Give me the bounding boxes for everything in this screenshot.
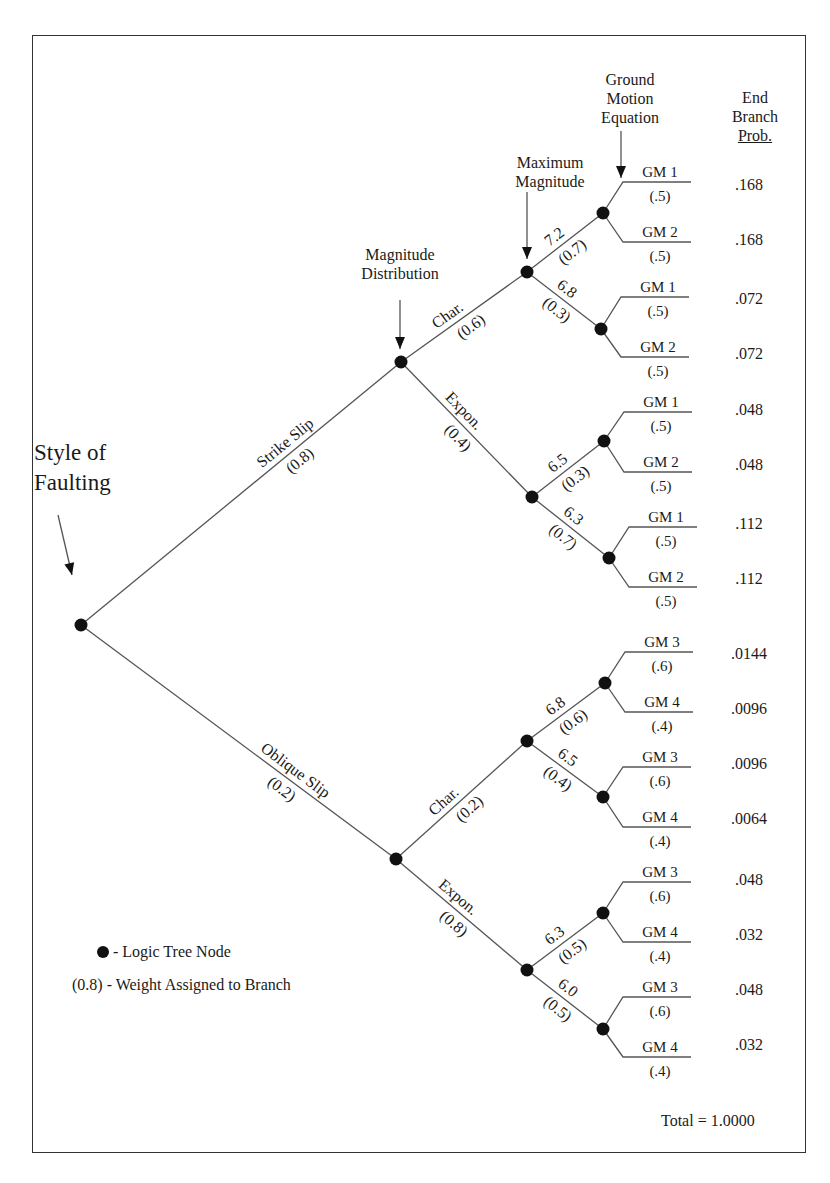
- logic-tree-node: [595, 323, 608, 336]
- ground-motion-weight: (.4): [649, 1063, 670, 1080]
- header-line: Maximum: [490, 153, 610, 172]
- logic-tree-node: [526, 491, 539, 504]
- logic-tree-node: [390, 853, 403, 866]
- header-style-of-faulting: Style of Faulting: [34, 438, 111, 498]
- ground-motion-weight: (.5): [655, 533, 676, 550]
- ground-motion-weight: (.5): [649, 188, 670, 205]
- branch-oblique-slip: [81, 625, 396, 859]
- ground-motion-branch: [603, 767, 691, 797]
- ground-motion-label: GM 2: [642, 224, 677, 240]
- header-line: Branch: [710, 107, 800, 126]
- ground-motion-label: GM 2: [643, 454, 678, 470]
- arrow-head-icon: [64, 562, 74, 575]
- branch-magnitude-distribution: [396, 741, 527, 859]
- ground-motion-weight: (.5): [650, 478, 671, 495]
- header-line: Motion: [570, 89, 690, 108]
- end-branch-prob: .072: [714, 345, 784, 363]
- branch-label: 6.0: [555, 975, 581, 1001]
- header-line: Style of: [34, 438, 111, 468]
- header-underlined: Prob.: [738, 127, 772, 144]
- ground-motion-label: GM 1: [640, 279, 675, 295]
- end-branch-prob: .168: [714, 231, 784, 249]
- end-branch-prob: .048: [714, 981, 784, 999]
- ground-motion-label: GM 4: [642, 924, 678, 940]
- legend-weight-text: (0.8) - Weight Assigned to Branch: [72, 976, 291, 993]
- end-branch-prob: .0144: [714, 645, 784, 663]
- logic-tree-node: [599, 677, 612, 690]
- ground-motion-label: GM 3: [642, 749, 677, 765]
- logic-tree-node: [598, 435, 611, 448]
- header-line: Faulting: [34, 468, 111, 498]
- legend-node: - Logic Tree Node: [97, 943, 231, 961]
- ground-motion-weight: (.6): [649, 773, 670, 790]
- total-text: Total = 1.0000: [661, 1112, 755, 1129]
- ground-motion-weight: (.5): [647, 363, 668, 380]
- ground-motion-branch: [609, 527, 697, 558]
- ground-motion-label: GM 4: [642, 1039, 678, 1055]
- ground-motion-weight: (.4): [649, 833, 670, 850]
- ground-motion-label: GM 1: [642, 164, 677, 180]
- branch-label: 6.5: [555, 744, 581, 770]
- ground-motion-label: GM 3: [642, 979, 677, 995]
- logic-tree-node: [603, 552, 616, 565]
- end-branch-prob: .112: [714, 570, 784, 588]
- logic-tree-node: [521, 266, 534, 279]
- logic-tree-node: [597, 791, 610, 804]
- ground-motion-weight: (.5): [650, 418, 671, 435]
- ground-motion-weight: (.6): [649, 888, 670, 905]
- arrow-head-icon: [395, 337, 405, 349]
- ground-motion-label: GM 4: [644, 694, 680, 710]
- ground-motion-weight: (.5): [649, 248, 670, 265]
- end-branch-prob: .0096: [714, 755, 784, 773]
- branch-magnitude-distribution: [401, 362, 532, 497]
- branch-label: 6.8: [554, 276, 580, 302]
- end-branch-prob: .032: [714, 926, 784, 944]
- ground-motion-label: GM 4: [642, 809, 678, 825]
- branch-label: 6.3: [541, 922, 567, 948]
- arrow-head-icon: [522, 247, 532, 259]
- logic-tree-node: [597, 207, 610, 220]
- end-branch-prob: .048: [714, 871, 784, 889]
- ground-motion-branch: [604, 412, 692, 441]
- logic-tree-node: [521, 964, 534, 977]
- logic-tree-node: [75, 619, 88, 632]
- total-probability: Total = 1.0000: [661, 1112, 755, 1130]
- header-line: Ground: [570, 70, 690, 89]
- branch-label: 6.3: [561, 503, 587, 529]
- header-line: Magnitude: [490, 172, 610, 191]
- end-branch-prob: .048: [714, 401, 784, 419]
- ground-motion-weight: (.5): [647, 303, 668, 320]
- arrow-head-icon: [616, 166, 626, 178]
- header-ground-motion-equation: Ground Motion Equation: [570, 70, 690, 127]
- ground-motion-branch: [603, 182, 691, 213]
- logic-tree-node: [395, 356, 408, 369]
- branch-label: 6.8: [542, 693, 568, 719]
- ground-motion-weight: (.4): [649, 948, 670, 965]
- ground-motion-weight: (.5): [655, 593, 676, 610]
- end-branch-prob: .0064: [714, 810, 784, 828]
- header-end-branch-prob: End Branch Prob.: [710, 88, 800, 145]
- ground-motion-label: GM 2: [648, 569, 683, 585]
- end-branch-prob: .048: [714, 456, 784, 474]
- branch-label: 7.2: [541, 224, 567, 250]
- branch-strike-slip: [81, 362, 401, 625]
- end-branch-prob: .112: [714, 515, 784, 533]
- branch-magnitude-distribution: [396, 859, 527, 970]
- header-magnitude-distribution: Magnitude Distribution: [330, 245, 470, 283]
- ground-motion-label: GM 1: [648, 509, 683, 525]
- ground-motion-weight: (.4): [651, 718, 672, 735]
- logic-tree-node: [521, 735, 534, 748]
- branch-magnitude-distribution: [401, 272, 527, 362]
- ground-motion-weight: (.6): [649, 1003, 670, 1020]
- branch-label: 6.5: [544, 450, 570, 476]
- logic-tree-node: [597, 1023, 610, 1036]
- end-branch-prob: .168: [714, 176, 784, 194]
- logic-tree-diagram: Strike Slip(0.8)Char.(0.6)7.2(0.7)GM 1(.…: [0, 0, 830, 1183]
- ground-motion-branch: [603, 882, 691, 913]
- ground-motion-label: GM 2: [640, 339, 675, 355]
- ground-motion-label: GM 3: [642, 864, 677, 880]
- legend-node-text: - Logic Tree Node: [113, 943, 231, 960]
- header-line: Prob.: [710, 126, 800, 145]
- ground-motion-branch: [601, 297, 689, 329]
- end-branch-prob: .032: [714, 1036, 784, 1054]
